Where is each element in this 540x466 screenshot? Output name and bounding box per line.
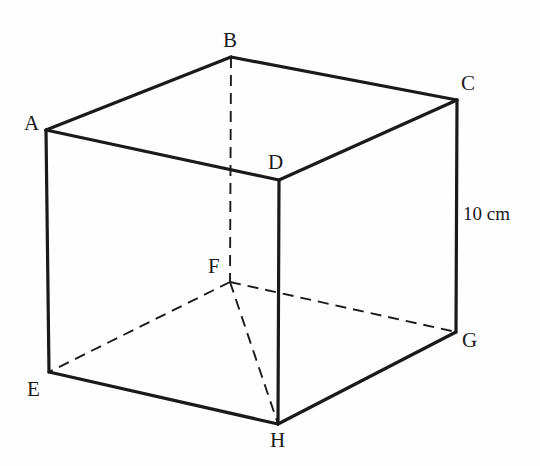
- cube-diagram: [0, 0, 540, 466]
- vertex-label-h: H: [270, 430, 285, 451]
- vertex-label-e: E: [27, 379, 40, 400]
- edge-F-E: [49, 282, 230, 372]
- edge-A-E: [46, 130, 49, 372]
- edge-E-H: [49, 372, 278, 424]
- edge-H-G: [278, 332, 456, 424]
- edge-D-A: [46, 130, 279, 180]
- figure-canvas: ABCDEFGH 10 cm: [0, 0, 540, 466]
- vertex-label-a: A: [24, 113, 39, 134]
- edge-B-C: [231, 57, 457, 100]
- vertex-label-f: F: [208, 256, 220, 277]
- height-dimension: 10 cm: [463, 204, 510, 223]
- edge-B-F: [230, 57, 231, 282]
- vertex-label-d: D: [268, 152, 283, 173]
- vertex-label-g: G: [462, 330, 477, 351]
- vertex-label-c: C: [461, 73, 475, 94]
- edge-D-H: [278, 180, 279, 424]
- edge-A-B: [46, 57, 231, 130]
- edge-F-H: [230, 282, 278, 424]
- vertex-label-b: B: [223, 30, 237, 51]
- solid-edge-group: [46, 57, 457, 424]
- edge-C-G: [456, 100, 457, 332]
- dashed-edge-group: [49, 57, 456, 424]
- edge-F-G: [230, 282, 456, 332]
- edge-C-D: [279, 100, 457, 180]
